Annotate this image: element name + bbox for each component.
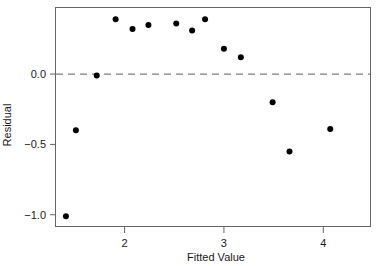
data-point [94,73,100,79]
plot-canvas: 0.0−0.5−1.0 234 Fitted Value Residual [0,0,377,266]
data-point [63,213,69,219]
data-point [189,28,195,34]
x-tick-label: 3 [221,237,227,249]
data-point [327,126,333,132]
data-point [287,148,293,154]
y-tick-label: −0.5 [24,138,46,150]
y-tick-label: 0.0 [31,68,46,80]
data-point [173,20,179,26]
data-point [130,26,136,32]
residual-scatter-plot: 0.0−0.5−1.0 234 Fitted Value Residual [0,0,377,266]
x-tick-label: 2 [122,237,128,249]
data-point [145,22,151,28]
data-point [202,16,208,22]
data-point [73,127,79,133]
data-point [270,99,276,105]
data-point [238,54,244,60]
x-tick-label: 4 [320,237,326,249]
data-point [113,16,119,22]
data-point [221,46,227,52]
x-axis-title: Fitted Value [187,251,245,263]
y-axis-title: Residual [1,104,13,147]
y-tick-label: −1.0 [24,209,46,221]
